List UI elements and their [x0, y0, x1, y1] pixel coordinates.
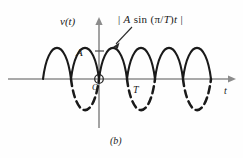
- rectified-waveform: [43, 48, 211, 79]
- equation-annotation: | A sin (π/T)t |: [118, 14, 183, 25]
- y-axis-label: v(t): [60, 16, 75, 27]
- x-axis-label: t: [224, 86, 227, 96]
- period-label: T: [133, 85, 139, 95]
- x-axis-arrowhead: [228, 75, 236, 82]
- amplitude-label: A: [76, 47, 83, 58]
- equation-close-bar: |: [180, 13, 183, 25]
- equation-leader-arrow: [113, 27, 132, 49]
- equation-function: sin: [134, 13, 148, 25]
- equation-amplitude: A: [124, 13, 131, 25]
- figure-rectified-sine: v(t) t A O T | A sin (π/T)t | (b): [0, 0, 243, 158]
- y-axis-arrowhead: [95, 17, 102, 25]
- origin-label: O: [92, 83, 99, 92]
- figure-caption: (b): [110, 136, 122, 146]
